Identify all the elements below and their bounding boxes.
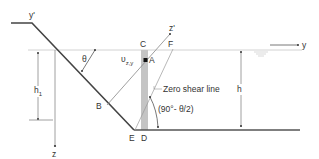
angle-arc — [150, 97, 158, 127]
diagram-canvas — [0, 0, 319, 159]
label-C: C — [140, 40, 146, 49]
h1-subscript: 1 — [39, 91, 42, 97]
point-A-marker — [144, 58, 148, 62]
h1-top-arrowhead — [37, 52, 39, 54]
label-h1: h1 — [34, 86, 42, 97]
label-z: z — [52, 150, 56, 159]
theta-arrowhead-bottom — [81, 70, 83, 72]
angle-arc-start — [149, 96, 151, 98]
y-axis-arrowhead — [297, 44, 299, 46]
label-F: F — [168, 40, 173, 49]
label-angle: (90°- θ/2) — [158, 105, 194, 114]
u-subscript: z,y — [126, 60, 134, 66]
label-u-zy: υz,y — [121, 55, 133, 66]
label-z-prime: z' — [169, 24, 175, 33]
label-B: B — [96, 102, 102, 111]
left-bank-slope — [11, 23, 134, 130]
label-zero-shear-line: Zero shear line — [163, 85, 220, 94]
water-level-icon — [254, 52, 268, 56]
label-E: E — [129, 134, 135, 143]
label-theta: θ — [82, 55, 87, 64]
z-prime-axis-line — [107, 34, 170, 105]
label-D: D — [141, 134, 147, 143]
z-axis-arrowhead — [54, 145, 56, 147]
h-bottom-arrowhead — [240, 125, 242, 127]
h-top-arrowhead — [240, 51, 242, 53]
label-h: h — [237, 84, 242, 95]
angle-arc-end — [157, 126, 159, 128]
trapezoidal-channel-diagram: y' z' C F A υz,y θ h1 B Zero shear line … — [0, 0, 319, 159]
label-y-prime: y' — [29, 11, 35, 20]
label-A: A — [149, 56, 155, 65]
label-y: y — [302, 41, 306, 50]
theta-arrowhead-top — [94, 49, 96, 51]
z-prime-arrowhead — [169, 33, 171, 35]
